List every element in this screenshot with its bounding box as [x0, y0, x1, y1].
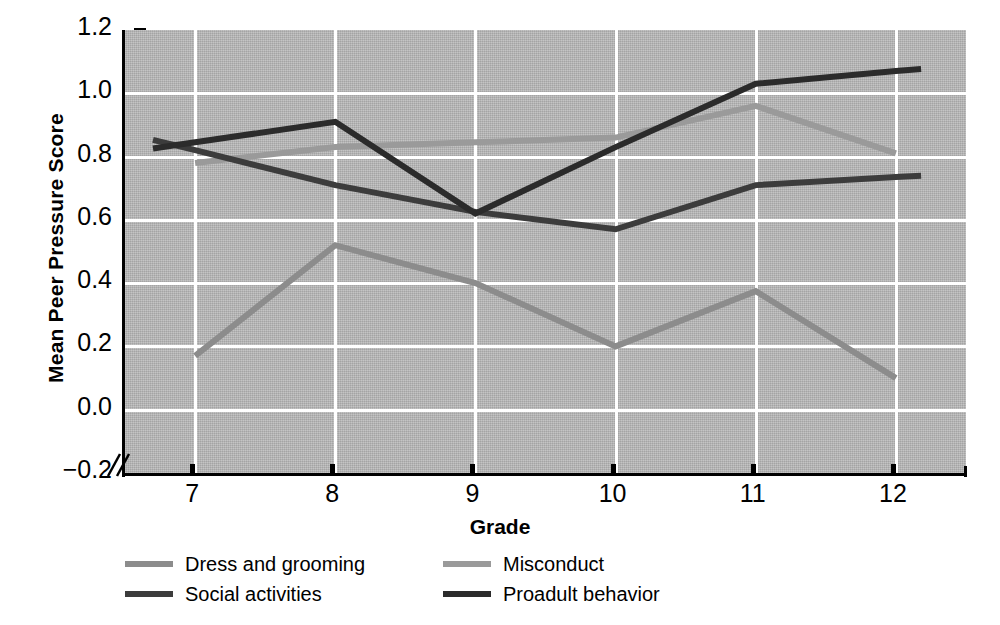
legend-swatch-icon	[125, 561, 173, 567]
legend-item[interactable]: Dress and grooming	[125, 552, 365, 576]
legend-item[interactable]: Social activities	[125, 582, 322, 606]
x-tick-label: 7	[162, 480, 222, 508]
legend-label: Proadult behavior	[503, 584, 660, 604]
data-lines	[125, 30, 966, 473]
chart-legend: Dress and groomingMisconductSocial activ…	[125, 552, 745, 610]
legend-item[interactable]: Misconduct	[443, 552, 604, 576]
y-tick-label: 0.4	[22, 267, 112, 292]
legend-label: Social activities	[185, 584, 322, 604]
legend-swatch-icon	[443, 591, 491, 597]
legend-label: Dress and grooming	[185, 554, 365, 574]
x-tick-mark	[330, 464, 335, 476]
legend-swatch-icon	[443, 561, 491, 567]
x-tick-mark	[611, 464, 616, 476]
y-tick-label: 0.6	[22, 204, 112, 229]
axis-break-icon	[104, 452, 134, 478]
x-tick-mark	[190, 464, 195, 476]
x-axis-right-cap	[964, 466, 967, 477]
x-axis-title: Grade	[0, 515, 1000, 539]
x-tick-label: 10	[583, 480, 643, 508]
series-line	[195, 106, 896, 163]
y-tick-label: 0.0	[22, 394, 112, 419]
y-tick-label: 0.8	[22, 141, 112, 166]
y-tick-label: 1.0	[22, 77, 112, 102]
x-tick-label: 11	[723, 480, 783, 508]
x-tick-label: 9	[442, 480, 502, 508]
plot-area	[122, 30, 966, 473]
x-tick-label: 8	[302, 480, 362, 508]
y-tick-label: 1.2	[22, 14, 112, 39]
x-tick-mark	[891, 464, 896, 476]
series-line	[195, 245, 896, 378]
x-tick-mark	[470, 464, 475, 476]
x-axis-line	[122, 473, 967, 476]
legend-label: Misconduct	[503, 554, 604, 574]
legend-swatch-icon	[125, 591, 173, 597]
y-tick-label: 0.2	[22, 330, 112, 355]
x-tick-label: 12	[863, 480, 923, 508]
y-tick-label: −0.2	[22, 457, 112, 482]
y-axis-ticks: 1.21.00.80.60.40.20.0−0.2	[22, 0, 112, 500]
x-tick-mark	[751, 464, 756, 476]
chart-figure: Mean Peer Pressure Score 1.21.00.80.60.4…	[0, 0, 1000, 625]
legend-item[interactable]: Proadult behavior	[443, 582, 660, 606]
